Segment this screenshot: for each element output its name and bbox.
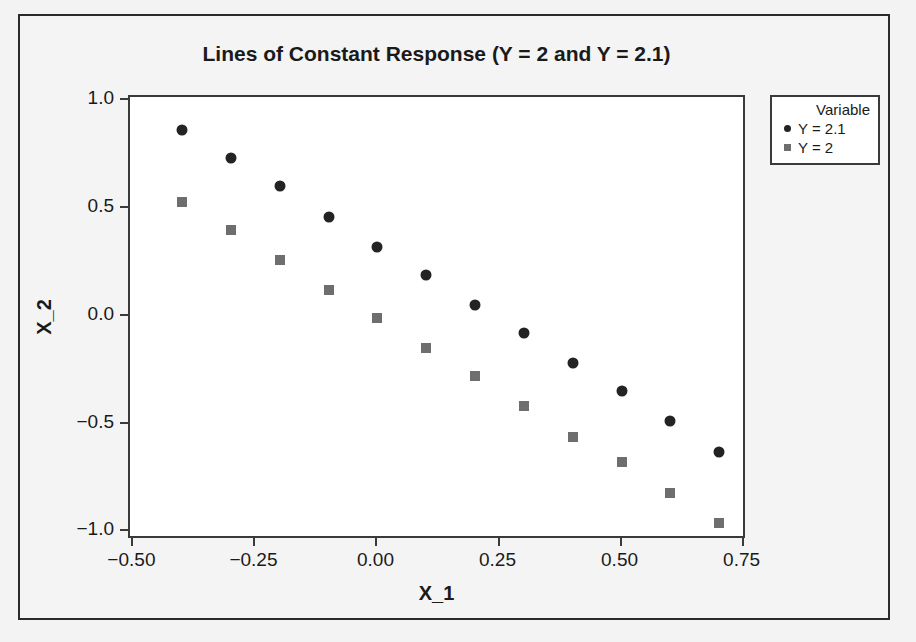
data-point xyxy=(568,432,578,442)
x-tick-label: −0.25 xyxy=(229,549,277,571)
data-point xyxy=(714,518,724,528)
data-points-layer xyxy=(130,97,743,536)
data-point xyxy=(177,197,187,207)
data-point xyxy=(567,358,578,369)
legend-item-y-2[interactable]: Y = 2 xyxy=(776,138,872,157)
data-point xyxy=(324,285,334,295)
data-point xyxy=(519,401,529,411)
data-point xyxy=(665,488,675,498)
y-tick-label: 1.0 xyxy=(88,87,114,109)
data-point xyxy=(274,181,285,192)
legend-item-label: Y = 2 xyxy=(798,138,833,157)
data-point xyxy=(226,153,237,164)
y-axis-tick xyxy=(120,98,128,100)
x-tick-label: 0.50 xyxy=(601,549,638,571)
x-axis-tick xyxy=(375,538,377,546)
data-point xyxy=(665,416,676,427)
y-axis-tick xyxy=(120,529,128,531)
y-tick-label: −0.5 xyxy=(76,411,114,433)
x-axis-tick xyxy=(498,538,500,546)
data-point xyxy=(714,446,725,457)
data-point xyxy=(275,255,285,265)
data-point xyxy=(372,241,383,252)
data-point xyxy=(617,457,627,467)
plot-area xyxy=(128,95,745,538)
y-tick-label: 0.0 xyxy=(88,303,114,325)
data-point xyxy=(177,125,188,136)
data-point xyxy=(470,300,481,311)
x-axis-tick xyxy=(131,538,133,546)
x-tick-label: 0.75 xyxy=(723,549,760,571)
x-tick-label: 0.00 xyxy=(357,549,394,571)
x-tick-label: 0.25 xyxy=(479,549,516,571)
y-axis-tick xyxy=(120,206,128,208)
x-axis-label: X_1 xyxy=(128,582,745,605)
x-tick-label: −0.50 xyxy=(107,549,155,571)
legend-square-marker-icon xyxy=(776,144,798,151)
data-point xyxy=(470,371,480,381)
data-point xyxy=(518,328,529,339)
y-axis-label: X_2 xyxy=(33,299,56,335)
x-axis-tick xyxy=(253,538,255,546)
y-tick-label: 0.5 xyxy=(88,195,114,217)
y-axis-tick xyxy=(120,314,128,316)
data-point xyxy=(372,313,382,323)
data-point xyxy=(226,225,236,235)
legend-title: Variable xyxy=(776,100,872,119)
x-axis-tick xyxy=(620,538,622,546)
y-axis-tick xyxy=(120,422,128,424)
data-point xyxy=(421,343,431,353)
legend-item-label: Y = 2.1 xyxy=(798,119,846,138)
legend-item-y-2-1[interactable]: Y = 2.1 xyxy=(776,119,872,138)
chart-title: Lines of Constant Response (Y = 2 and Y … xyxy=(128,42,745,66)
legend: Variable Y = 2.1 Y = 2 xyxy=(770,95,880,165)
data-point xyxy=(323,211,334,222)
legend-circle-marker-icon xyxy=(776,125,798,132)
y-tick-label: −1.0 xyxy=(76,518,114,540)
x-axis-tick xyxy=(742,538,744,546)
data-point xyxy=(421,269,432,280)
chart-screenshot: Lines of Constant Response (Y = 2 and Y … xyxy=(0,0,916,642)
data-point xyxy=(616,386,627,397)
